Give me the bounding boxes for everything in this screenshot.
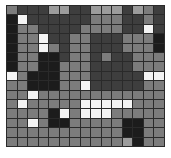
- grid-cell: [28, 81, 38, 89]
- grid-cell: [81, 72, 91, 80]
- grid-cell: [28, 109, 38, 117]
- grid-cell: [39, 100, 49, 108]
- grid-cell: [81, 109, 91, 117]
- grid-cell: [81, 15, 91, 23]
- grid-cell: [39, 128, 49, 136]
- grid-cell: [28, 53, 38, 61]
- grid-cell: [133, 15, 143, 23]
- grid-cell: [123, 62, 133, 70]
- grid-cell: [154, 119, 164, 127]
- grid-cell: [112, 100, 122, 108]
- grid-cell: [70, 72, 80, 80]
- grid-cell: [91, 91, 101, 99]
- grid-cell: [81, 91, 91, 99]
- grid-cell: [123, 109, 133, 117]
- grid-cell: [7, 81, 17, 89]
- grid-cell: [133, 109, 143, 117]
- grid-cell: [18, 100, 28, 108]
- grid-cell: [28, 62, 38, 70]
- grid-cell: [81, 6, 91, 14]
- grid-cell: [39, 25, 49, 33]
- grid-cell: [70, 53, 80, 61]
- grid-cell: [49, 72, 59, 80]
- grid-cell: [28, 119, 38, 127]
- grid-cell: [18, 15, 28, 23]
- grid-cell: [7, 100, 17, 108]
- grid-cell: [91, 72, 101, 80]
- grid-cell: [49, 15, 59, 23]
- grid-cell: [7, 119, 17, 127]
- grid-cell: [91, 81, 101, 89]
- grid-cell: [144, 72, 154, 80]
- grid-cell: [133, 128, 143, 136]
- grid-cell: [154, 53, 164, 61]
- grid-cell: [49, 100, 59, 108]
- grid-cell: [28, 25, 38, 33]
- grid-cell: [112, 25, 122, 33]
- grid-cell: [7, 138, 17, 146]
- grid-cell: [133, 34, 143, 42]
- grid-cell: [144, 53, 154, 61]
- grid-cell: [102, 128, 112, 136]
- grid-cell: [81, 53, 91, 61]
- grid-cell: [154, 91, 164, 99]
- grid-cell: [49, 109, 59, 117]
- grid-cell: [112, 72, 122, 80]
- grid-cell: [70, 109, 80, 117]
- grid-cell: [102, 81, 112, 89]
- grid-cell: [144, 138, 154, 146]
- grid-cell: [144, 128, 154, 136]
- grid-cell: [39, 72, 49, 80]
- grid-cell: [60, 72, 70, 80]
- grid-cell: [7, 62, 17, 70]
- grid-cell: [123, 100, 133, 108]
- grid-cell: [154, 34, 164, 42]
- grid-cell: [102, 62, 112, 70]
- grid-cell: [112, 91, 122, 99]
- grid-cell: [144, 81, 154, 89]
- grid-cell: [123, 128, 133, 136]
- grid-cell: [60, 34, 70, 42]
- grid-cell: [123, 15, 133, 23]
- grid-cell: [18, 34, 28, 42]
- grid-cell: [60, 109, 70, 117]
- grid-cell: [28, 15, 38, 23]
- grid-cell: [39, 119, 49, 127]
- grid-cell: [154, 128, 164, 136]
- grid-cell: [123, 81, 133, 89]
- grid-cell: [39, 62, 49, 70]
- grid-cell: [112, 81, 122, 89]
- grid-cell: [39, 91, 49, 99]
- grid-cell: [102, 25, 112, 33]
- grid-cell: [81, 81, 91, 89]
- grid-cell: [133, 119, 143, 127]
- grid-cell: [18, 109, 28, 117]
- grid-cell: [28, 100, 38, 108]
- grid-cell: [133, 100, 143, 108]
- grid-cell: [133, 25, 143, 33]
- grid-cell: [60, 25, 70, 33]
- grid-cell: [133, 91, 143, 99]
- grid-cell: [112, 15, 122, 23]
- grid-cell: [123, 91, 133, 99]
- grid-cell: [154, 25, 164, 33]
- grid-cell: [144, 100, 154, 108]
- grid-cell: [154, 6, 164, 14]
- grid-cell: [133, 62, 143, 70]
- grid-cell: [112, 109, 122, 117]
- grid-cell: [112, 6, 122, 14]
- grid-cell: [39, 6, 49, 14]
- grid-cell: [49, 81, 59, 89]
- grid-cell: [112, 138, 122, 146]
- grid-cell: [91, 128, 101, 136]
- grid-cell: [102, 72, 112, 80]
- grid-cell: [91, 34, 101, 42]
- grid-cell: [70, 6, 80, 14]
- grid-cell: [154, 138, 164, 146]
- grid-cell: [81, 62, 91, 70]
- grid-cell: [60, 53, 70, 61]
- grid-cell: [144, 91, 154, 99]
- grid-cell: [60, 138, 70, 146]
- grid-cell: [91, 53, 101, 61]
- grid-cell: [70, 128, 80, 136]
